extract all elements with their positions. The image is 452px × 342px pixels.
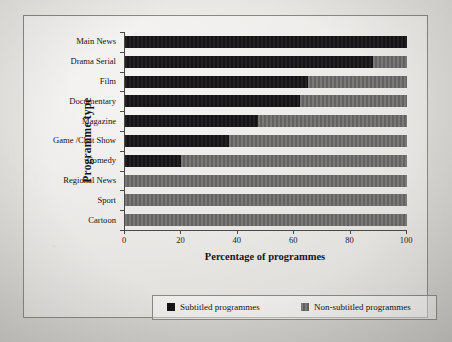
bar-row xyxy=(125,56,407,68)
bar-segment xyxy=(125,214,407,226)
y-axis-tick xyxy=(120,72,125,73)
x-axis-tick xyxy=(406,230,407,234)
y-axis-tick xyxy=(120,151,125,152)
bar-row xyxy=(125,135,407,147)
bar-segment xyxy=(125,95,300,107)
bar-segment xyxy=(125,36,407,48)
x-axis-tick-label: 0 xyxy=(122,235,126,245)
x-axis-tick-label: 60 xyxy=(289,235,298,245)
x-axis-tick-label: 80 xyxy=(345,235,354,245)
chart-frame: Programme type Main NewsDrama SerialFilm… xyxy=(23,15,428,318)
bar-segment xyxy=(258,115,407,127)
bar-segment xyxy=(125,76,308,88)
x-axis-title: Percentage of programmes xyxy=(124,251,406,262)
y-axis-tick-label: Main News xyxy=(20,36,116,46)
bar-row xyxy=(125,36,407,48)
x-axis-tick-label: 20 xyxy=(176,235,185,245)
bar-segment xyxy=(229,135,407,147)
legend-swatch-nonsub xyxy=(301,303,309,311)
y-axis-tick xyxy=(120,190,125,191)
bar-segment xyxy=(125,115,258,127)
x-axis-tick xyxy=(180,230,181,234)
y-axis-tick xyxy=(120,171,125,172)
chart-legend: Subtitled programmesNon-subtitled progra… xyxy=(152,295,437,320)
y-axis-tick-label: Game /Chat Show xyxy=(20,135,116,145)
bar-row xyxy=(125,155,407,167)
bar-segment xyxy=(308,76,407,88)
plot-area: Main NewsDrama SerialFilmDocumentaryMaga… xyxy=(124,32,406,230)
y-axis-tick xyxy=(120,210,125,211)
y-axis-tick-label: Magazine xyxy=(20,116,116,126)
legend-item: Subtitled programmes xyxy=(167,302,260,312)
y-axis-tick-label: Film xyxy=(20,76,116,86)
legend-item: Non-subtitled programmes xyxy=(301,302,411,312)
y-axis-tick xyxy=(120,52,125,53)
x-axis-line xyxy=(124,230,406,231)
y-axis-tick-label: Comedy xyxy=(20,155,116,165)
y-axis-tick-label: Documentary xyxy=(20,96,116,106)
legend-label: Subtitled programmes xyxy=(180,302,260,312)
y-axis-tick-labels: Main NewsDrama SerialFilmDocumentaryMaga… xyxy=(20,32,116,230)
bar-row xyxy=(125,175,407,187)
x-axis-tick-label: 100 xyxy=(400,235,413,245)
y-axis-tick xyxy=(120,131,125,132)
bar-segment xyxy=(125,175,407,187)
bar-row xyxy=(125,194,407,206)
x-axis-tick-label: 40 xyxy=(233,235,242,245)
bar-segment xyxy=(181,155,407,167)
x-axis-tick xyxy=(237,230,238,234)
bar-segment xyxy=(125,155,181,167)
chart-page: Programme type Main NewsDrama SerialFilm… xyxy=(0,0,452,342)
y-axis-tick-label: Cartoon xyxy=(20,215,116,225)
y-axis-tick xyxy=(120,32,125,33)
bar-row xyxy=(125,115,407,127)
legend-label: Non-subtitled programmes xyxy=(314,302,411,312)
y-axis-tick-label: Regional News xyxy=(20,175,116,185)
bar-segment xyxy=(373,56,407,68)
bar-segment xyxy=(125,194,407,206)
x-axis-tick xyxy=(124,230,125,234)
bar-segment xyxy=(125,56,373,68)
x-axis-tick xyxy=(350,230,351,234)
bar-row xyxy=(125,214,407,226)
x-axis-tick xyxy=(293,230,294,234)
y-axis-tick xyxy=(120,91,125,92)
y-axis-tick xyxy=(120,111,125,112)
bar-row xyxy=(125,76,407,88)
bar-segment xyxy=(300,95,407,107)
bar-segment xyxy=(125,135,229,147)
bar-row xyxy=(125,95,407,107)
legend-swatch-sub xyxy=(167,303,175,311)
y-axis-tick-label: Sport xyxy=(20,195,116,205)
y-axis-tick-label: Drama Serial xyxy=(20,56,116,66)
